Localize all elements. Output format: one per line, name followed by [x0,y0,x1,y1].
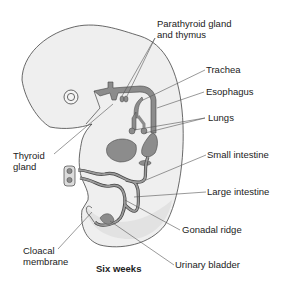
label-small-intestine: Small intestine [207,149,269,160]
label-text: and thymus [157,29,206,40]
label-lungs: Lungs [208,112,234,123]
label-esophagus: Esophagus [206,86,254,97]
label-cloacal-membrane: Cloacal membrane [23,245,68,267]
diagram-caption: Six weeks [96,263,141,274]
liver [107,139,137,162]
label-text: Thyroid [13,150,45,161]
eye-icon [64,90,78,104]
label-large-intestine: Large intestine [207,186,269,197]
label-urinary-bladder: Urinary bladder [175,259,240,270]
label-thyroid: Thyroid gland [13,150,45,172]
label-trachea: Trachea [206,64,241,75]
label-parathyroid: Parathyroid gland and thymus [157,18,231,40]
label-gonadal-ridge: Gonadal ridge [182,224,242,235]
embryo-diagram [0,0,282,283]
label-text: membrane [23,256,68,267]
label-text: Cloacal [23,245,55,256]
label-text: gland [13,161,36,172]
label-text: Parathyroid gland [157,18,231,29]
